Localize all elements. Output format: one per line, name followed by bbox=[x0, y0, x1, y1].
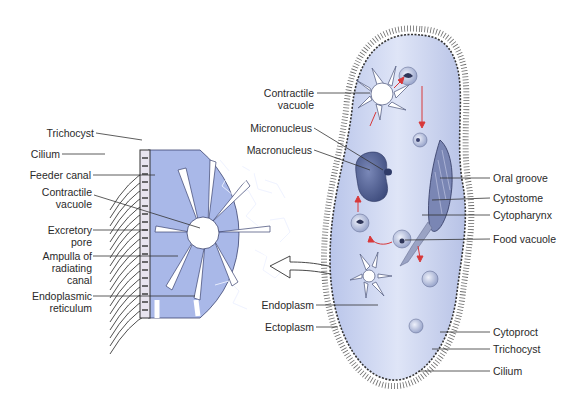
label-cytopharynx: Cytopharynx bbox=[493, 209, 552, 221]
label-trichocyst-left: Trichocyst bbox=[0, 127, 94, 139]
label-line: radiating bbox=[0, 262, 92, 274]
label-cilium-right: Cilium bbox=[493, 365, 522, 377]
label-line: vacuole bbox=[0, 198, 92, 210]
label-ectoplasm: Ectoplasm bbox=[220, 321, 314, 333]
label-ampulla: Ampulla of radiating canal bbox=[0, 250, 92, 286]
label-line: pore bbox=[0, 236, 92, 248]
label-oral-groove: Oral groove bbox=[493, 172, 548, 184]
label-line: Excretory bbox=[0, 224, 92, 236]
label-endoplasmic-reticulum: Endoplasmic reticulum bbox=[0, 290, 92, 314]
macronucleus bbox=[356, 152, 388, 202]
label-cilium-left: Cilium bbox=[0, 148, 60, 160]
label-cytoproct: Cytoproct bbox=[493, 326, 538, 338]
label-excretory-pore: Excretory pore bbox=[0, 224, 92, 248]
label-macronucleus: Macronucleus bbox=[220, 144, 312, 156]
label-line: vacuole bbox=[220, 99, 314, 111]
micronucleus bbox=[384, 169, 392, 176]
label-line: reticulum bbox=[0, 302, 92, 314]
label-line: Contractile bbox=[0, 186, 92, 198]
label-feeder-canal: Feeder canal bbox=[0, 169, 91, 181]
label-trichocyst-right: Trichocyst bbox=[493, 343, 540, 355]
label-micronucleus: Micronucleus bbox=[220, 122, 312, 134]
label-line: Endoplasmic bbox=[0, 290, 92, 302]
label-contractile-vacuole-right: Contractile vacuole bbox=[220, 87, 314, 111]
label-contractile-vacuole-left: Contractile vacuole bbox=[0, 186, 92, 210]
paramecium-body bbox=[324, 28, 471, 386]
label-line: canal bbox=[0, 274, 92, 286]
label-line: Contractile bbox=[220, 87, 314, 99]
label-endoplasm: Endoplasm bbox=[220, 299, 314, 311]
label-food-vacuole: Food vacuole bbox=[493, 233, 556, 245]
contractile-vacuole-detail bbox=[187, 217, 219, 249]
label-cytostome: Cytostome bbox=[493, 192, 543, 204]
label-line: Ampulla of bbox=[0, 250, 92, 262]
